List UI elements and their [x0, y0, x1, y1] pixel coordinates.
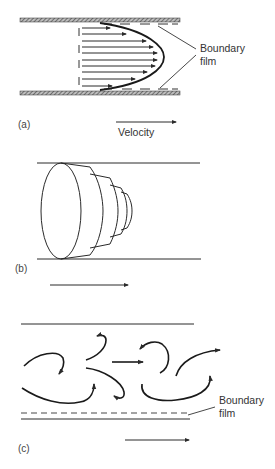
telescoping-layers [41, 163, 132, 259]
panel-a: Boundary film (a) Velocity [18, 18, 246, 138]
panel-c: Boundary film (c) [18, 324, 265, 454]
boundary-film-leader-line-c [188, 407, 215, 415]
boundary-film-label-a-line2: film [200, 55, 217, 67]
panel-b-label: (b) [15, 263, 27, 274]
boundary-film-label-c-line2: film [219, 407, 236, 419]
pipe-wall-top [20, 18, 180, 22]
turbulent-eddies [22, 335, 220, 403]
parabolic-profile-curve [100, 23, 164, 90]
panel-a-label: (a) [18, 119, 30, 130]
pipe-wall-bottom [20, 91, 180, 95]
boundary-film-label-c-line1: Boundary [219, 394, 265, 406]
panel-c-label: (c) [18, 443, 30, 454]
boundary-film-label-a-line1: Boundary [200, 42, 246, 54]
flow-diagram: Boundary film (a) Velocity (b) [0, 0, 275, 469]
panel-b: (b) [15, 163, 201, 285]
velocity-label: Velocity [118, 126, 155, 138]
